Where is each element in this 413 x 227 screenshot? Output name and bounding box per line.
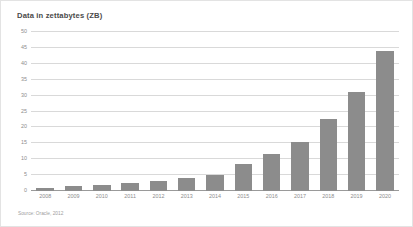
- y-axis-tick-label: 10: [21, 155, 27, 161]
- source-note: Source: Oracle, 2012: [18, 211, 63, 216]
- bar: [291, 142, 309, 191]
- bar: [121, 183, 139, 191]
- bar: [178, 178, 196, 191]
- y-axis-tick-label: 0: [24, 187, 27, 193]
- y-axis-tick-label: 40: [21, 60, 27, 66]
- x-axis-tick-label: 2009: [59, 193, 87, 199]
- bar: [206, 175, 224, 191]
- bar-slot: [258, 32, 286, 191]
- bar: [348, 92, 366, 191]
- y-axis-tick-label: 30: [21, 92, 27, 98]
- bar-slot: [201, 32, 229, 191]
- bar: [263, 154, 281, 191]
- x-axis-tick-label: 2020: [371, 193, 399, 199]
- y-axis-tick-label: 15: [21, 139, 27, 145]
- y-axis-tick-label: 20: [21, 123, 27, 129]
- x-axis-tick-label: 2011: [116, 193, 144, 199]
- y-axis-tick-label: 35: [21, 76, 27, 82]
- bar: [93, 185, 111, 191]
- y-axis-tick-label: 50: [21, 28, 27, 34]
- y-axis-tick-label: 5: [24, 171, 27, 177]
- chart-title: Data in zettabytes (ZB): [17, 11, 102, 20]
- bar: [235, 164, 253, 191]
- bar: [65, 186, 83, 191]
- x-axis-tick-label: 2019: [342, 193, 370, 199]
- x-axis-tick-label: 2016: [258, 193, 286, 199]
- bar-slot: [31, 32, 59, 191]
- chart-figure: Data in zettabytes (ZB) 0510152025303540…: [0, 0, 413, 227]
- bar-slot: [88, 32, 116, 191]
- bar-slot: [144, 32, 172, 191]
- bar-slot: [173, 32, 201, 191]
- bar-slot: [116, 32, 144, 191]
- bar-series: [31, 32, 399, 191]
- x-axis-tick-label: 2014: [201, 193, 229, 199]
- bar-slot: [314, 32, 342, 191]
- x-axis-tick-label: 2010: [88, 193, 116, 199]
- x-axis-tick-label: 2013: [173, 193, 201, 199]
- bar: [150, 181, 168, 191]
- x-axis-tick-label: 2008: [31, 193, 59, 199]
- bar-slot: [371, 32, 399, 191]
- bar: [376, 51, 394, 191]
- y-axis-tick-label: 25: [21, 108, 27, 114]
- bar-slot: [229, 32, 257, 191]
- bar-slot: [59, 32, 87, 191]
- x-axis-labels: 2008200920102011201220132014201520162017…: [31, 193, 399, 199]
- x-axis-tick-label: 2018: [314, 193, 342, 199]
- x-axis-tick-label: 2012: [144, 193, 172, 199]
- x-axis-tick-label: 2017: [286, 193, 314, 199]
- y-axis-tick-label: 45: [21, 44, 27, 50]
- bar: [320, 119, 338, 191]
- plot-area: 05101520253035404550: [31, 32, 399, 191]
- bar-slot: [286, 32, 314, 191]
- bar: [36, 188, 54, 191]
- bar-slot: [342, 32, 370, 191]
- x-axis-tick-label: 2015: [229, 193, 257, 199]
